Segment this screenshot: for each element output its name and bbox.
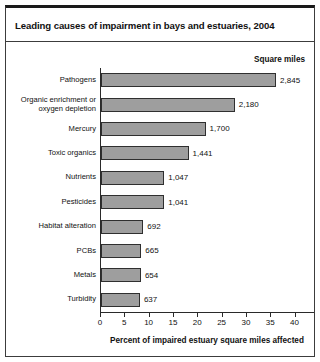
category-label-row: Mercury — [6, 117, 100, 141]
x-axis-tick-label: 35 — [266, 318, 275, 327]
category-label: PCBs — [77, 247, 96, 256]
category-label-row: Habitat alteration — [6, 214, 100, 238]
category-label-row: Toxic organics — [6, 141, 100, 165]
chart-bar — [101, 293, 140, 307]
category-label: Habitat alteration — [39, 222, 96, 231]
chart-bar-row: 2,845 — [100, 68, 314, 92]
category-label: Mercury — [69, 125, 96, 134]
chart-bar — [101, 244, 141, 258]
x-axis-tick — [222, 312, 223, 317]
chart-bar-row: 1,441 — [100, 141, 314, 165]
chart-bar-row: 637 — [100, 288, 314, 312]
category-label-row: PCBs — [6, 239, 100, 263]
x-axis: 0510152025303540 — [100, 312, 314, 324]
chart-bar — [101, 195, 164, 209]
bar-value-label: 665 — [145, 246, 158, 255]
chart-bar-row: 1,047 — [100, 166, 314, 190]
x-axis-tick — [270, 312, 271, 317]
chart-bar — [101, 122, 206, 136]
bar-value-label: 1,441 — [193, 149, 213, 158]
chart-bar-row: 692 — [100, 214, 314, 238]
bar-value-label: 2,845 — [280, 76, 300, 85]
category-axis-labels: PathogensOrganic enrichment or oxygen de… — [6, 68, 100, 312]
x-axis-tick-label: 15 — [169, 318, 178, 327]
chart-bar-row: 2,180 — [100, 92, 314, 116]
value-column-header: Square miles — [254, 55, 305, 64]
category-label: Toxic organics — [48, 149, 96, 158]
category-label: Organic enrichment or oxygen depletion — [21, 96, 96, 113]
category-label-row: Metals — [6, 263, 100, 287]
x-axis-tick — [295, 312, 296, 317]
figure-container: Leading causes of impairment in bays and… — [5, 5, 315, 357]
bars-region: 2,8452,1801,7001,4411,0471,0416926656546… — [100, 68, 314, 312]
bar-value-label: 1,047 — [168, 173, 188, 182]
bar-value-label: 654 — [145, 271, 158, 280]
category-label-row: Pesticides — [6, 190, 100, 214]
category-label-row: Turbidity — [6, 288, 100, 312]
x-axis-tick — [124, 312, 125, 317]
chart-bar — [101, 268, 141, 282]
x-axis-tick-label: 25 — [217, 318, 226, 327]
category-label: Metals — [74, 271, 96, 280]
bar-value-label: 692 — [147, 222, 160, 231]
chart-bar — [101, 98, 235, 112]
bar-value-label: 637 — [144, 295, 157, 304]
chart-bar-row: 665 — [100, 239, 314, 263]
x-axis-tick-label: 10 — [144, 318, 153, 327]
chart-bar — [101, 73, 276, 87]
chart-bar-row: 654 — [100, 263, 314, 287]
x-axis-tick-label: 40 — [290, 318, 299, 327]
chart-bar-row: 1,041 — [100, 190, 314, 214]
chart-bar-row: 1,700 — [100, 117, 314, 141]
x-axis-tick-label: 30 — [241, 318, 250, 327]
bar-value-label: 1,700 — [210, 124, 230, 133]
category-label: Nutrients — [66, 173, 96, 182]
category-label-row: Pathogens — [6, 68, 100, 92]
category-label-row: Nutrients — [6, 166, 100, 190]
x-axis-line — [100, 312, 314, 313]
chart-bar — [101, 220, 143, 234]
category-label-row: Organic enrichment or oxygen depletion — [6, 92, 100, 116]
category-label: Turbidity — [67, 295, 96, 304]
chart-bar — [101, 146, 189, 160]
x-axis-tick-label: 0 — [98, 318, 102, 327]
chart-bar — [101, 171, 164, 185]
x-axis-title: Percent of impaired estuary square miles… — [100, 336, 314, 345]
bar-value-label: 2,180 — [239, 100, 259, 109]
x-axis-tick — [246, 312, 247, 317]
category-label: Pesticides — [61, 198, 96, 207]
x-axis-tick — [149, 312, 150, 317]
x-axis-tick — [100, 312, 101, 317]
category-label: Pathogens — [60, 76, 96, 85]
x-axis-tick-label: 5 — [122, 318, 126, 327]
x-axis-tick-label: 20 — [193, 318, 202, 327]
page-title: Leading causes of impairment in bays and… — [15, 20, 309, 31]
bar-value-label: 1,041 — [168, 198, 188, 207]
x-axis-tick — [197, 312, 198, 317]
chart-plot-area: Square miles PathogensOrganic enrichment… — [6, 42, 314, 324]
x-axis-tick — [173, 312, 174, 317]
